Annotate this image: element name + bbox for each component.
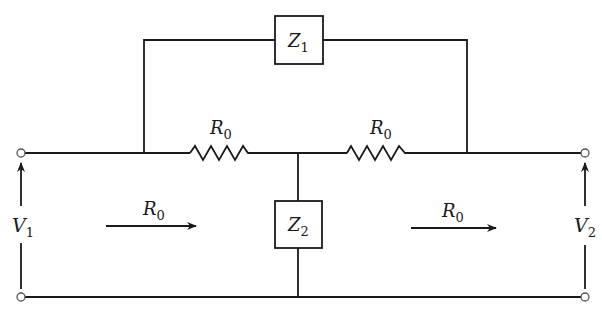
z2-subscript: 2 [301,224,309,239]
arrow-left-symbol: R [142,198,157,219]
svg-text:R0: R0 [441,200,464,225]
z2-symbol: Z [287,214,301,235]
z1-impedance: Z1 [275,16,323,64]
v2-voltage-indicator: V2 [574,163,596,289]
resistor-right: R0 [347,117,412,160]
output-terminal-bottom [581,293,589,301]
v1-subscript: 1 [26,225,34,240]
bridged-t-circuit: Z1 R0 R0 Z2 V1 [0,0,602,317]
input-terminal-bottom [17,293,25,301]
r-left-symbol: R [209,117,224,138]
z2-impedance: Z2 [275,201,322,248]
z1-subscript: 1 [301,40,309,55]
v2-subscript: 2 [588,225,596,240]
svg-text:R0: R0 [369,117,392,142]
v1-voltage-indicator: V1 [12,163,34,289]
r-right-subscript: 0 [384,127,392,142]
input-terminal-top [17,149,25,157]
resistor-left: R0 [190,117,253,160]
arrow-left-subscript: 0 [157,208,165,223]
svg-text:R0: R0 [142,198,165,223]
output-terminal-top [581,149,589,157]
svg-text:V2: V2 [574,214,596,240]
r-left-subscript: 0 [224,127,232,142]
impedance-arrow-right: R0 [411,200,496,228]
r-right-symbol: R [369,117,384,138]
svg-text:V1: V1 [12,214,34,240]
impedance-arrow-left: R0 [106,198,196,226]
arrow-right-subscript: 0 [456,210,464,225]
svg-text:R0: R0 [209,117,232,142]
arrow-right-symbol: R [441,200,456,221]
z1-symbol: Z [287,30,301,51]
